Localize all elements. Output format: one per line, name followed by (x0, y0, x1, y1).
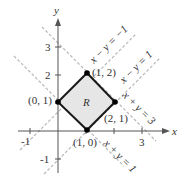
vertex-0-1 (55, 99, 61, 105)
x-tick-3: 3 (139, 136, 145, 148)
vertex-label-1-2: (1, 2) (92, 66, 116, 79)
vertex-label-1-0: (1, 0) (73, 136, 97, 149)
y-tick-2: 2 (45, 69, 51, 81)
line-label-x-minus-y-eq-1: x − y = 1 (116, 48, 154, 86)
vertex-label-0-1: (0, 1) (28, 94, 52, 107)
x-axis-arrow (162, 128, 170, 134)
line-label-x-minus-y-eq-neg1: x − y = −1 (86, 23, 130, 67)
vertex-1-0 (84, 127, 90, 133)
vertex-1-2 (84, 70, 90, 76)
x-axis-label: x (171, 125, 177, 137)
vertex-label-2-1: (2, 1) (104, 112, 128, 125)
vertex-2-1 (112, 99, 118, 105)
x-tick-neg1: -1 (21, 135, 30, 147)
y-axis-label: y (53, 4, 59, 16)
region-diagram: R x y -1 3 3 2 -1 (1, 2) (0, 1) (2, 1) (… (0, 0, 184, 188)
y-tick-neg1: -1 (40, 153, 49, 165)
line-label-x-plus-y-eq-1: x + y = 1 (101, 136, 139, 174)
y-tick-3: 3 (45, 41, 51, 53)
region-label: R (82, 96, 90, 108)
y-axis-arrow (55, 18, 61, 26)
